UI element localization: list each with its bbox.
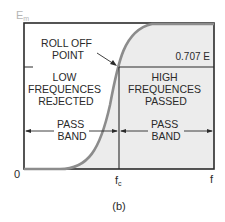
high-pass-filter-diagram: Em ROLL OFF POINT LOW FREQUENCES REJECTE… bbox=[0, 0, 225, 222]
y-axis-label: Em bbox=[16, 9, 29, 22]
origin-label: 0 bbox=[14, 168, 20, 180]
cutoff-frequency-label: fc bbox=[115, 174, 122, 187]
figure-caption: (b) bbox=[112, 200, 125, 212]
rolloff-label: ROLL OFF POINT bbox=[41, 37, 95, 61]
threshold-label: 0.707 E bbox=[176, 51, 211, 62]
left-pass-band-label: PASS BAND bbox=[57, 118, 87, 142]
right-pass-band-label: PASS BAND bbox=[151, 118, 181, 142]
rolloff-arrow bbox=[97, 53, 117, 66]
x-axis-label: f bbox=[210, 173, 214, 185]
low-frequencies-label: LOW FREQUENCES REJECTED bbox=[28, 71, 104, 107]
